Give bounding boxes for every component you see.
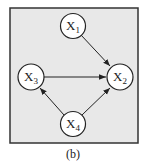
- node-x1: X1: [61, 14, 86, 39]
- node-x4: X4: [61, 112, 86, 137]
- figure-caption: (b): [0, 147, 146, 162]
- node-x2: X2: [107, 64, 133, 90]
- graph-diagram: X1 X2 X3 X4: [0, 0, 146, 164]
- node-x3: X3: [18, 64, 44, 90]
